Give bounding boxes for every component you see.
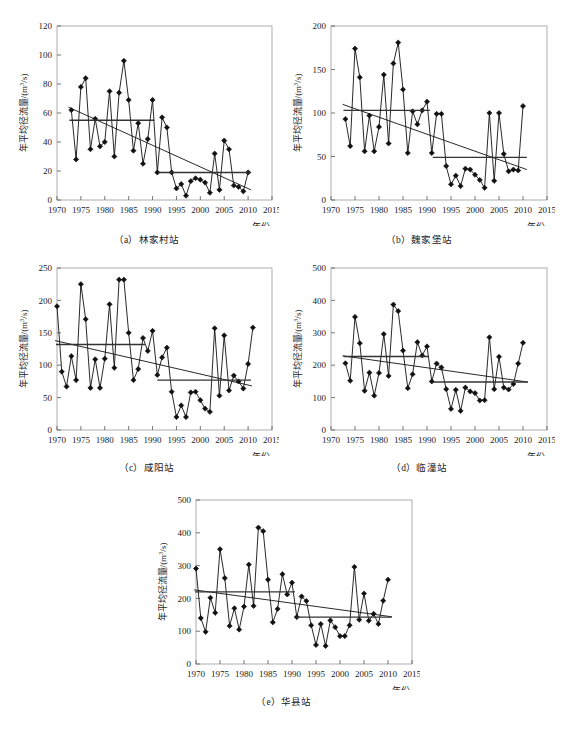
- chart-canvas-c: 0501001502002501970197519801985199019952…: [14, 258, 279, 456]
- y-tick-label: 0: [187, 659, 192, 669]
- chart-a: 0204060801001201970197519801985199019952…: [14, 14, 279, 226]
- data-point-marker: [362, 388, 367, 393]
- data-point-marker: [179, 403, 184, 408]
- y-tick-label: 200: [39, 296, 53, 306]
- data-point-marker: [226, 388, 231, 393]
- data-point-marker: [140, 161, 145, 166]
- data-point-marker: [226, 147, 231, 152]
- data-point-marker: [520, 340, 525, 345]
- data-point-marker: [323, 643, 328, 648]
- data-point-marker: [169, 389, 174, 394]
- data-point-marker: [246, 562, 251, 567]
- series-line: [71, 61, 248, 196]
- data-point-marker: [357, 341, 362, 346]
- x-tick-label: 2005: [215, 435, 234, 445]
- data-point-marker: [160, 355, 165, 360]
- data-point-marker: [487, 335, 492, 340]
- x-tick-label: 2010: [514, 435, 533, 445]
- data-point-marker: [136, 121, 141, 126]
- x-tick-label: 1975: [346, 205, 365, 215]
- panel-b: 0501001502001970197519801985199019952000…: [283, 14, 555, 254]
- data-point-marker: [155, 372, 160, 377]
- x-tick-label: 1985: [120, 205, 139, 215]
- data-point-marker: [193, 566, 198, 571]
- x-tick-label: 1995: [307, 669, 326, 679]
- x-tick-label: 1975: [346, 435, 365, 445]
- data-point-marker: [328, 618, 333, 623]
- data-point-marker: [117, 90, 122, 95]
- data-point-marker: [386, 373, 391, 378]
- x-tick-label: 2005: [490, 205, 509, 215]
- y-axis-title: 年平均径流量/(m3/s): [18, 74, 29, 153]
- data-point-marker: [309, 623, 314, 628]
- x-tick-label: 1970: [48, 205, 67, 215]
- data-point-marker: [342, 634, 347, 639]
- data-point-marker: [463, 166, 468, 171]
- x-tick-label: 2000: [466, 435, 485, 445]
- y-tick-label: 50: [317, 152, 327, 162]
- x-tick-label: 1995: [167, 435, 186, 445]
- data-point-marker: [198, 398, 203, 403]
- data-point-marker: [348, 378, 353, 383]
- x-tick-label: 2000: [191, 205, 210, 215]
- y-axis-title-main: 年平均径流量/(m: [292, 86, 303, 153]
- data-point-marker: [405, 150, 410, 155]
- y-tick-label: 120: [39, 21, 53, 31]
- data-point-marker: [164, 345, 169, 350]
- y-tick-label: 100: [178, 626, 192, 636]
- data-point-marker: [74, 378, 79, 383]
- data-point-marker: [333, 625, 338, 630]
- x-axis-title: 年份: [252, 451, 270, 456]
- data-point-marker: [188, 179, 193, 184]
- y-tick-label: 150: [39, 328, 53, 338]
- x-tick-label: 1970: [322, 435, 341, 445]
- data-point-marker: [112, 365, 117, 370]
- data-point-marker: [140, 335, 145, 340]
- data-point-marker: [183, 414, 188, 419]
- data-point-marker: [313, 642, 318, 647]
- panel-a: 0204060801001201970197519801985199019952…: [14, 14, 279, 254]
- data-point-marker: [386, 141, 391, 146]
- plot-frame: [196, 500, 412, 664]
- data-point-marker: [511, 167, 516, 172]
- data-point-marker: [361, 591, 366, 596]
- data-point-marker: [501, 385, 506, 390]
- x-tick-label: 1970: [48, 435, 67, 445]
- x-tick-label: 1975: [72, 205, 91, 215]
- data-point-marker: [265, 577, 270, 582]
- data-point-marker: [280, 572, 285, 577]
- data-point-marker: [107, 302, 112, 307]
- data-point-marker: [93, 357, 98, 362]
- x-tick-label: 1985: [259, 669, 278, 679]
- data-point-marker: [241, 386, 246, 391]
- data-point-marker: [212, 151, 217, 156]
- data-point-marker: [164, 125, 169, 130]
- y-axis-title: 年平均径流量/(m3/s): [292, 310, 303, 389]
- data-point-marker: [472, 390, 477, 395]
- data-point-marker: [506, 169, 511, 174]
- x-tick-label: 1990: [418, 435, 437, 445]
- y-tick-label: 100: [313, 108, 327, 118]
- x-tick-label: 2010: [514, 205, 533, 215]
- data-point-marker: [372, 393, 377, 398]
- data-point-marker: [131, 148, 136, 153]
- data-point-marker: [83, 76, 88, 81]
- plot-frame: [57, 268, 272, 430]
- data-point-marker: [217, 187, 222, 192]
- chart-c: 0501001502002501970197519801985199019952…: [14, 258, 279, 456]
- data-point-marker: [64, 384, 69, 389]
- data-point-marker: [237, 627, 242, 632]
- y-tick-label: 0: [48, 425, 53, 435]
- y-tick-label: 60: [43, 108, 53, 118]
- data-point-marker: [482, 398, 487, 403]
- y-tick-label: 200: [178, 594, 192, 604]
- data-point-marker: [381, 72, 386, 77]
- y-axis-title-main: 年平均径流量/(m: [157, 555, 168, 622]
- y-tick-label: 100: [39, 50, 53, 60]
- y-axis-title-main: 年平均径流量/(m: [292, 322, 303, 389]
- data-point-marker: [97, 385, 102, 390]
- data-point-marker: [352, 564, 357, 569]
- data-point-marker: [150, 328, 155, 333]
- y-tick-label: 50: [43, 393, 53, 403]
- plot-frame: [331, 268, 547, 430]
